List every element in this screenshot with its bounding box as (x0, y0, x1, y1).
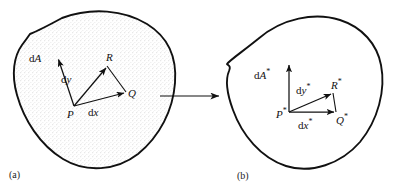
label-vector-dy-b: dy* (296, 83, 310, 96)
panel-caption-a: (a) (9, 169, 20, 180)
panel-caption-b: (b) (237, 170, 249, 181)
label-point-p-b: P* (276, 107, 287, 120)
label-vector-dy-a: dy (61, 74, 71, 85)
label-vector-dx-b: dx* (298, 118, 312, 131)
panel-a: ddAA dy dx P Q R (a) (0, 0, 198, 195)
label-point-p-a: P (67, 109, 74, 120)
label-point-r-a: R (106, 52, 113, 63)
figure-root: ddAA dy dx P Q R (a) (0, 0, 396, 195)
label-point-q-b: Q* (336, 113, 348, 126)
label-area-vector-a: ddAA (29, 53, 41, 64)
label-vector-dx-a: dx (88, 107, 98, 118)
panel-b-graphics (198, 0, 396, 195)
label-area-vector-b: dA* (254, 68, 270, 81)
label-point-r-b: R* (331, 78, 342, 91)
label-point-q-a: Q (128, 88, 136, 99)
panel-b: dA* dy* dx* P* Q* R* (b) (198, 0, 396, 195)
panel-a-graphics (0, 0, 198, 195)
region-outline-a (14, 11, 175, 168)
